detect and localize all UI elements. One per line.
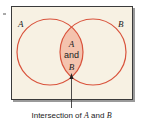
caption: Intersection of A and B [0,111,143,120]
caption-prefix: Intersection of [31,111,83,120]
intersection-label-a: A [68,39,75,49]
set-a-label: A [17,19,24,29]
caption-set-b: B [107,111,112,120]
intersection-label-and: and [64,50,79,60]
venn-diagram: A B A and B [0,0,143,127]
set-b-label: B [118,19,124,29]
intersection-label-b: B [69,62,75,72]
caption-middle: and [89,111,107,120]
